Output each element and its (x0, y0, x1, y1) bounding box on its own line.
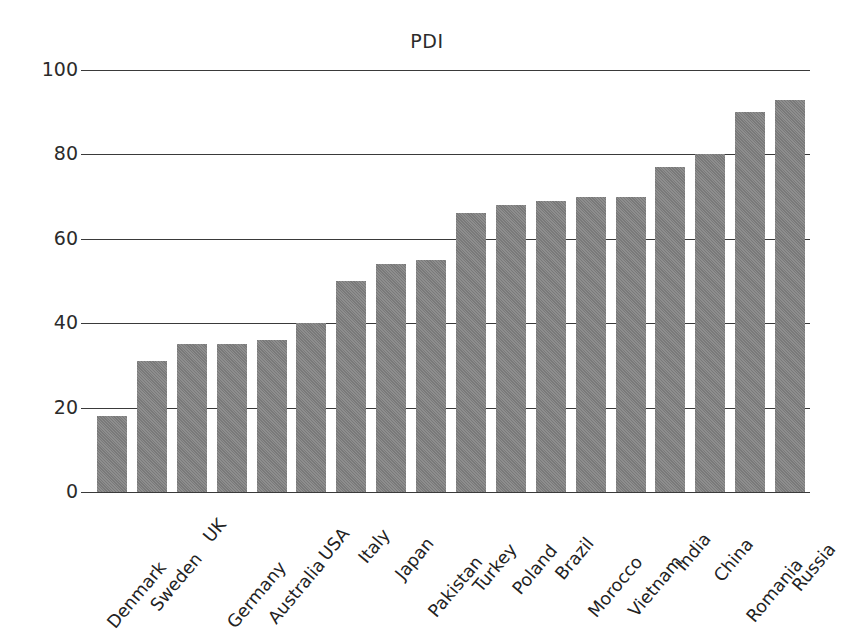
bar (97, 416, 127, 492)
y-axis-tick-mark-100 (81, 70, 92, 71)
y-axis-tick-label-20: 20 (18, 396, 78, 418)
gridline-0 (92, 492, 810, 493)
y-axis-tick-label-0: 0 (18, 480, 78, 502)
x-axis-tick-label: USA (315, 524, 354, 565)
y-axis-tick-mark-20 (81, 408, 92, 409)
y-axis-tick-mark-40 (81, 323, 92, 324)
bar (536, 201, 566, 492)
bar (257, 340, 287, 492)
y-axis-tick-label-80: 80 (18, 142, 78, 164)
bar (576, 197, 606, 492)
x-axis-tick-label: Japan (391, 533, 438, 583)
y-axis-tick-label-40: 40 (18, 311, 78, 333)
x-axis-labels: DenmarkSwedenUKGermanyAustraliaUSAItalyJ… (92, 496, 832, 624)
bar (735, 112, 765, 492)
bar (775, 100, 805, 492)
bars-layer (92, 70, 810, 492)
y-axis-tick-label-60: 60 (18, 227, 78, 249)
bar (695, 154, 725, 492)
x-axis-tick-label: Italy (354, 525, 394, 567)
bar (616, 197, 646, 492)
bar (336, 281, 366, 492)
y-axis-tick-mark-0 (81, 492, 92, 493)
y-axis-tick-mark-60 (81, 239, 92, 240)
bar (496, 205, 526, 492)
bar (416, 260, 446, 492)
y-axis-tick-mark-80 (81, 154, 92, 155)
bar (177, 344, 207, 492)
x-axis-tick-label: UK (199, 515, 230, 546)
bar (376, 264, 406, 492)
x-axis-tick-label: Brazil (551, 533, 598, 583)
bar (655, 167, 685, 492)
bar (296, 323, 326, 492)
plot-area: 020406080100 (92, 70, 810, 492)
bar (456, 213, 486, 492)
y-axis-tick-label-100: 100 (18, 58, 78, 80)
bar (217, 344, 247, 492)
x-axis-tick-label: China (710, 534, 757, 585)
chart-title: PDI (0, 30, 854, 52)
bar (137, 361, 167, 492)
x-axis-tick-label: India (672, 529, 715, 575)
